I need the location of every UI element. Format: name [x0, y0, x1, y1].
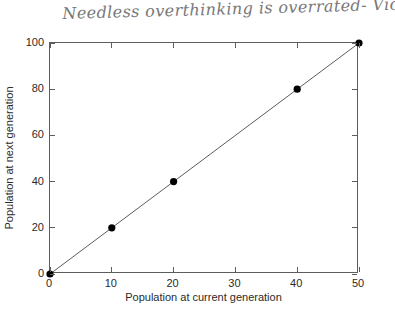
x-tick-mark: [173, 267, 174, 272]
y-tick-label: 80: [5, 82, 44, 94]
y-tick-mark: [50, 274, 55, 275]
y-tick-mark: [352, 135, 357, 136]
y-tick-mark: [50, 135, 55, 136]
y-tick-mark: [50, 181, 55, 182]
y-tick-label: 60: [5, 128, 44, 140]
y-tick-label: 100: [5, 36, 44, 48]
data-point-marker: [170, 178, 177, 185]
x-tick-mark: [111, 43, 112, 48]
x-tick-label: 0: [46, 277, 52, 289]
figure-canvas: Needless overthinking is overrated- Viol…: [0, 0, 395, 310]
y-tick-mark: [352, 274, 357, 275]
data-point-marker: [108, 224, 115, 231]
handwritten-annotation: Needless overthinking is overrated- Viol…: [62, 0, 393, 30]
y-tick-label: 20: [5, 221, 44, 233]
x-tick-label: 40: [290, 277, 302, 289]
y-tick-mark: [352, 181, 357, 182]
x-tick-mark: [359, 267, 360, 272]
y-axis-label: Population at next generation: [2, 42, 16, 273]
y-axis-label-text: Population at next generation: [3, 86, 15, 229]
x-tick-label: 30: [228, 277, 240, 289]
x-tick-mark: [173, 43, 174, 48]
y-tick-label: 40: [5, 175, 44, 187]
y-tick-mark: [50, 43, 55, 44]
x-tick-mark: [359, 43, 360, 48]
x-tick-mark: [297, 43, 298, 48]
y-tick-mark: [352, 89, 357, 90]
y-tick-mark: [50, 89, 55, 90]
x-axis-label: Population at current generation: [49, 291, 358, 303]
x-tick-label: 20: [166, 277, 178, 289]
plot-svg: [50, 43, 359, 274]
data-point-marker: [294, 86, 301, 93]
y-tick-mark: [50, 227, 55, 228]
x-tick-mark: [50, 43, 51, 48]
x-tick-mark: [235, 267, 236, 272]
series-line: [50, 43, 359, 274]
y-tick-mark: [352, 43, 357, 44]
x-tick-label: 50: [352, 277, 364, 289]
plot-area: [49, 42, 358, 273]
x-tick-label: 10: [105, 277, 117, 289]
x-tick-mark: [111, 267, 112, 272]
x-tick-mark: [50, 267, 51, 272]
x-tick-mark: [235, 43, 236, 48]
x-tick-mark: [297, 267, 298, 272]
y-tick-label: 0: [5, 267, 44, 279]
y-tick-mark: [352, 227, 357, 228]
